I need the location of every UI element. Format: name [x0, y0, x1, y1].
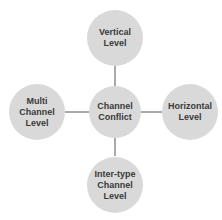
label-inter-type-channel-level: Inter-type Channel Level	[87, 157, 143, 213]
label-horizontal-level: Horizontal Level	[162, 84, 218, 140]
label-multi-channel-level: Multi Channel Level	[9, 84, 65, 140]
label-vertical-level: Vertical Level	[87, 10, 143, 66]
channel-conflict-diagram: Vertical Level Multi Channel Level Chann…	[0, 0, 222, 220]
label-channel-conflict: Channel Conflict	[89, 86, 141, 138]
